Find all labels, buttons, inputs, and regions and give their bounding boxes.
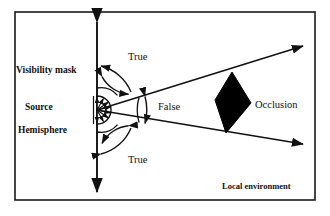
label-source: Source [25,103,53,113]
label-local-environment: Local environment [222,182,291,191]
label-true-bottom: True [128,155,147,166]
label-occlusion: Occlusion [255,100,298,111]
label-false: False [158,102,180,113]
visibility-mask-diagram: Visibility mask Source Hemisphere True T… [0,0,330,216]
label-hemisphere: Hemisphere [18,126,67,136]
label-visibility-mask: Visibility mask [16,66,77,76]
label-true-top: True [128,52,147,63]
